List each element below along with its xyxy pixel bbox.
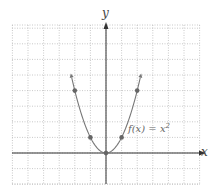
function-label: f(x) = x2 — [128, 122, 170, 134]
y-axis-arrow-icon — [104, 22, 109, 29]
data-point — [73, 88, 78, 93]
data-point — [104, 151, 109, 156]
function-name: f(x) = x — [128, 123, 166, 134]
function-exponent: 2 — [166, 122, 170, 130]
curve-arrow-icon — [138, 74, 142, 78]
data-point — [88, 135, 93, 140]
data-point — [119, 135, 124, 140]
curve-arrow-icon — [70, 74, 74, 78]
parabola-graph — [0, 0, 214, 193]
data-point — [135, 88, 140, 93]
x-axis-label: x — [201, 145, 208, 159]
y-axis-label: y — [102, 6, 109, 20]
